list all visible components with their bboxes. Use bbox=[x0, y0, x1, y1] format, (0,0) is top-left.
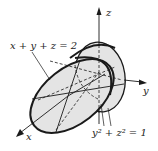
y-axis-label: y bbox=[142, 85, 149, 96]
diagram-canvas: x + y + z = 2 y² + z² = 1 z y x bbox=[0, 0, 158, 151]
z-arrow-icon bbox=[97, 7, 102, 15]
z-axis-label: z bbox=[105, 7, 112, 18]
plane-equation-label: x + y + z = 2 bbox=[10, 40, 77, 51]
cylinder-equation-label: y² + z² = 1 bbox=[91, 127, 147, 138]
x-axis-label: x bbox=[26, 131, 32, 142]
plane-leader-line bbox=[32, 52, 50, 80]
x-arrow-icon bbox=[16, 129, 24, 137]
